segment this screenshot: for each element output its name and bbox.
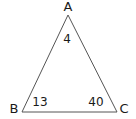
angle-label-a: 4 — [63, 32, 71, 46]
triangle-diagram: A B C 4 13 40 — [0, 0, 136, 119]
angle-label-b: 13 — [32, 95, 47, 109]
vertex-label-b: B — [10, 101, 19, 116]
angle-label-c: 40 — [88, 95, 103, 109]
vertex-label-c: C — [119, 101, 128, 116]
vertex-label-a: A — [64, 0, 73, 14]
